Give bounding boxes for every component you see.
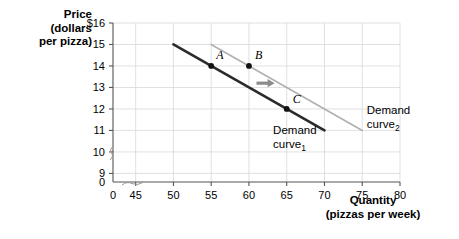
y-axis-title-line-1: Price — [4, 8, 92, 22]
x-axis-title: Quantity (pizzas per week) — [290, 193, 456, 221]
y-tick-label: 14 — [93, 60, 105, 72]
data-points: ABC — [208, 48, 301, 112]
x-axis-title-main: Quantity — [290, 193, 456, 207]
data-point-A — [208, 63, 214, 69]
x-tick-label: 60 — [243, 189, 255, 201]
x-tick-label: 45 — [130, 189, 142, 201]
y-tick-label: 10 — [93, 146, 105, 158]
x-tick-label: 0 — [110, 189, 116, 201]
axis-lines — [113, 23, 400, 182]
x-tick-label: 50 — [167, 189, 179, 201]
y-tick-label: 13 — [93, 81, 105, 93]
y-tick-label: 12 — [93, 103, 105, 115]
data-point-B — [246, 63, 252, 69]
y-axis-break-mark — [110, 147, 113, 160]
y-tick-label: 15 — [93, 38, 105, 50]
x-axis-break-mark — [122, 183, 143, 186]
x-tick-label: 55 — [205, 189, 217, 201]
demand-curve-subscript: 2 — [395, 123, 400, 133]
demand-curve-2-label-line1: Demand — [367, 104, 410, 116]
y-tick-label: 0 — [99, 176, 105, 188]
gridlines — [113, 23, 400, 182]
data-point-label-C: C — [293, 92, 302, 106]
demand-curve-subscript: 1 — [301, 143, 306, 153]
y-axis-title-line-2: (dollars — [4, 22, 92, 36]
data-point-C — [284, 106, 290, 112]
data-point-label-A: A — [215, 48, 224, 62]
demand-curve-1-label-line1: Demand — [273, 124, 316, 136]
data-point-label-B: B — [255, 48, 263, 62]
y-tick-label: 11 — [94, 124, 105, 136]
demand-curve-2-label-line2: curve2 — [367, 118, 400, 133]
axis-break-marks — [110, 147, 143, 185]
demand-curve-1-label-line2: curve1 — [273, 138, 306, 153]
y-axis-title-line-3: per pizza) — [4, 35, 92, 49]
y-axis-title: Price (dollars per pizza) — [4, 8, 92, 49]
x-axis-title-sub: (pizzas per week) — [290, 207, 456, 221]
demand-curve-shift-chart: Price (dollars per pizza) Quantity (pizz… — [0, 0, 459, 239]
chart-annotations — [257, 79, 275, 87]
